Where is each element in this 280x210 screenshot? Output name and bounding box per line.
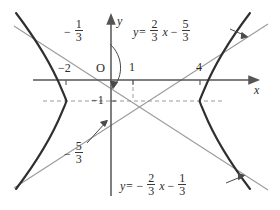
asymptote-lines xyxy=(14,24,268,190)
y-tick-label-minus-1: −1 xyxy=(91,94,104,106)
rising-lhs: y= xyxy=(133,25,146,39)
annotation-upper-sign: − xyxy=(64,25,71,39)
annotation-upper-intercept: − 1 3 xyxy=(64,18,84,43)
annotation-lower-intercept: − 5 3 xyxy=(64,140,84,165)
annotation-upper-fraction: 1 3 xyxy=(75,18,83,43)
rising-const-denominator: 3 xyxy=(182,30,190,43)
rising-slope-denominator: 3 xyxy=(150,30,158,43)
falling-const-sign: − xyxy=(168,179,175,193)
falling-slope-numerator: 2 xyxy=(147,172,155,184)
rising-variable: x xyxy=(162,25,167,39)
annotation-lower-denominator: 3 xyxy=(75,152,83,165)
annotation-upper-denominator: 3 xyxy=(75,30,83,43)
x-tick-label-1: 1 xyxy=(129,61,135,73)
falling-const-numerator: 1 xyxy=(178,172,186,184)
rising-const-fraction: 5 3 xyxy=(182,18,190,43)
arrowhead-lower-intercept xyxy=(101,120,108,126)
rising-slope-numerator: 2 xyxy=(150,18,158,30)
y-axis-label: y xyxy=(117,15,122,27)
falling-slope-sign: − xyxy=(136,179,143,193)
x-axis-label: x xyxy=(254,84,259,96)
falling-lhs: y= xyxy=(120,179,133,193)
x-tick-label-minus-2: −2 xyxy=(58,62,71,74)
equation-falling-line: y= − 2 3 x − 1 3 xyxy=(120,172,187,197)
rising-const-sign: − xyxy=(171,25,178,39)
falling-slope-fraction: 2 3 xyxy=(147,172,155,197)
asymptote-rising-line xyxy=(14,24,268,188)
x-tick-label-4: 4 xyxy=(196,61,202,73)
annotation-lower-fraction: 5 3 xyxy=(75,140,83,165)
annotation-upper-numerator: 1 xyxy=(75,18,83,30)
asymptote-falling-line xyxy=(14,26,268,190)
falling-const-denominator: 3 xyxy=(178,184,186,197)
y-axis-arrowhead xyxy=(107,15,114,24)
falling-slope-denominator: 3 xyxy=(147,184,155,197)
annotation-lower-sign: − xyxy=(64,147,71,161)
annotation-lower-numerator: 5 xyxy=(75,140,83,152)
origin-label: O xyxy=(96,62,105,75)
falling-const-fraction: 1 3 xyxy=(178,172,186,197)
rising-const-numerator: 5 xyxy=(182,18,190,30)
equation-rising-line: y= 2 3 x − 5 3 xyxy=(133,18,191,43)
rising-slope-fraction: 2 3 xyxy=(150,18,158,43)
falling-variable: x xyxy=(159,179,164,193)
